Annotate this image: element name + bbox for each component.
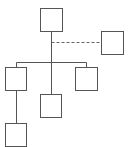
org-chart-diagram bbox=[0, 0, 135, 147]
node-root bbox=[41, 9, 63, 32]
node-child-left bbox=[6, 68, 27, 91]
node-assistant bbox=[102, 32, 124, 55]
nodes bbox=[6, 9, 124, 147]
node-grandchild-left bbox=[6, 124, 27, 147]
node-child-right bbox=[76, 68, 98, 91]
node-child-middle bbox=[41, 95, 62, 118]
